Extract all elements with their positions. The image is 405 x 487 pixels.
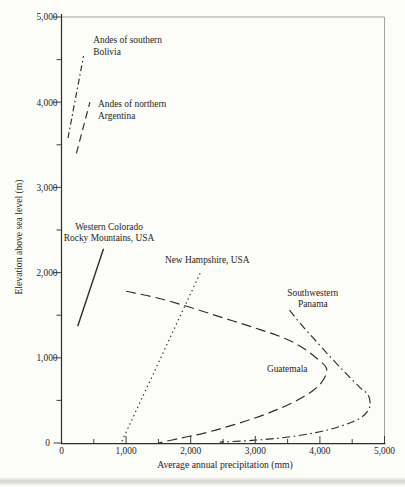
page-bottom-edge [0, 477, 405, 486]
x-tick-label: 0 [59, 446, 64, 456]
chart-svg: 01,0002,0003,0004,0005,00001,0002,0003,0… [0, 0, 405, 487]
x-axis-title: Average annual precipitation (mm) [157, 459, 293, 471]
y-axis-title: Elevation above sea level (m) [13, 179, 25, 294]
elevation-precipitation-chart: 01,0002,0003,0004,0005,00001,0002,0003,0… [0, 0, 405, 487]
series-label-andes-southern-bolivia: Andes of southern [93, 35, 162, 45]
series-label-new-hampshire: New Hampshire, USA [165, 255, 250, 265]
series-line-new-hampshire [122, 273, 200, 442]
x-tick-label: 5,000 [374, 446, 395, 456]
series-label-andes-northern-argentina: Andes of northern [98, 99, 167, 109]
y-tick-label: 5,000 [36, 12, 57, 22]
series-label-western-colorado-rocky-mountains: Rocky Mountains, USA [64, 233, 155, 243]
series-label-andes-northern-argentina: Argentina [98, 111, 136, 121]
series-label-guatemala: Guatemala [267, 364, 308, 374]
series-label-southwestern-panama: Southwestern [287, 288, 338, 298]
scanned-figure-page: 01,0002,0003,0004,0005,00001,0002,0003,0… [0, 0, 405, 487]
series-line-andes-northern-argentina [76, 102, 90, 153]
series-label-southwestern-panama: Panama [298, 299, 329, 309]
y-tick-label: 4,000 [36, 98, 57, 108]
x-tick-label: 2,000 [180, 446, 201, 456]
series-label-western-colorado-rocky-mountains: Western Colorado [75, 222, 143, 232]
x-tick-label: 1,000 [116, 446, 137, 456]
series-label-andes-southern-bolivia: Bolivia [93, 47, 121, 57]
series-line-western-colorado-rocky-mountains [78, 249, 104, 327]
y-tick-label: 1,000 [36, 353, 57, 363]
y-tick-label: 3,000 [36, 183, 57, 193]
x-tick-label: 3,000 [245, 446, 266, 456]
y-tick-label: 2,000 [36, 268, 57, 278]
series-line-andes-southern-bolivia [68, 56, 84, 138]
y-tick-label: 0 [45, 438, 50, 448]
x-tick-label: 4,000 [309, 446, 330, 456]
